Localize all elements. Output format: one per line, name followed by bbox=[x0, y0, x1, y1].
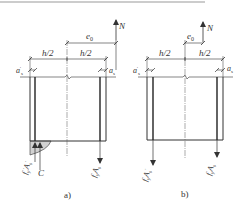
cover-right-label: as bbox=[109, 66, 115, 76]
break-line bbox=[138, 75, 233, 79]
cover-left-label: a's bbox=[133, 66, 140, 76]
figure-b: N e0 h/2 h/2 a's as fyAs' fyAs b) bbox=[133, 22, 233, 199]
compression-steel-force-label: fy'As' bbox=[20, 160, 33, 176]
figure-caption: b) bbox=[181, 189, 189, 199]
eccentricity-label: e0 bbox=[187, 31, 194, 42]
diagram-canvas: N e0 h/2 h/2 a's as fy'As' bbox=[0, 0, 249, 216]
half-depth-left-label: h/2 bbox=[159, 48, 171, 58]
concrete-stress-block bbox=[30, 141, 51, 155]
left-steel-force-label: fyAs' bbox=[140, 168, 153, 183]
half-depth-right-label: h/2 bbox=[80, 48, 92, 58]
eccentricity-label: e0 bbox=[86, 31, 93, 42]
half-depth-right-label: h/2 bbox=[199, 48, 211, 58]
cover-left-label: a's bbox=[16, 66, 23, 76]
figure-caption: a) bbox=[64, 190, 71, 200]
concrete-force-label: C bbox=[38, 168, 45, 178]
half-depth-left-label: h/2 bbox=[42, 48, 54, 58]
force-label: N bbox=[118, 21, 126, 31]
force-label: N bbox=[206, 23, 214, 33]
cover-right-label: as bbox=[227, 64, 233, 74]
right-steel-force-label: fyAs bbox=[204, 163, 217, 177]
tension-steel-force-label: fyAs bbox=[89, 165, 102, 179]
figure-a: N e0 h/2 h/2 a's as fy'As' bbox=[16, 20, 126, 200]
